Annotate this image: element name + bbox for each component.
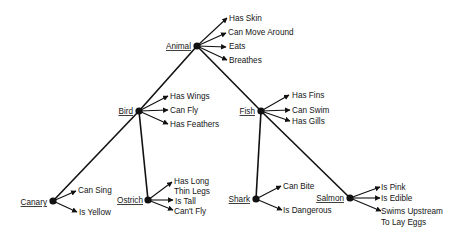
- prop-canary-is-yellow: Is Yellow: [79, 208, 111, 217]
- arrow-bird-has-feathers: [139, 111, 168, 124]
- prop-animal-has-skin: Has Skin: [229, 14, 262, 23]
- node-ostrich: [144, 196, 151, 203]
- prop-bird-has-feathers: Has Feathers: [170, 120, 219, 129]
- prop-animal-can-move-around: Can Move Around: [228, 28, 294, 37]
- label-bird: Bird: [118, 107, 133, 116]
- prop-animal-breathes: Breathes: [229, 56, 262, 65]
- prop-shark-can-bite: Can Bite: [283, 182, 315, 191]
- arrow-salmon-is-pink: [350, 187, 380, 198]
- edge-bird-ostrich: [139, 111, 148, 200]
- prop-fish-can-swim: Can Swim: [292, 106, 329, 115]
- arrow-animal-eats: [197, 46, 226, 47]
- node-canary: [49, 197, 56, 204]
- node-shark: [252, 195, 259, 202]
- label-shark: Shark: [229, 195, 251, 204]
- arrow-salmon-swims-upstream: [350, 198, 381, 211]
- prop-bird-can-fly: Can Fly: [170, 106, 199, 115]
- label-ostrich: Ostrich: [117, 196, 143, 205]
- prop-salmon-to-lay-eggs: To Lay Eggs: [381, 218, 426, 227]
- node-animal: [193, 42, 200, 49]
- property-arrows: [53, 18, 381, 212]
- label-salmon: Salmon: [316, 194, 344, 203]
- prop-shark-is-dangerous: Is Dangerous: [283, 206, 332, 215]
- edge-animal-bird: [139, 46, 197, 111]
- arrow-shark-is-dangerous: [256, 199, 282, 210]
- prop-ostrich-is-tall: Is Tall: [175, 197, 196, 206]
- prop-bird-has-wings: Has Wings: [170, 92, 210, 101]
- node-salmon: [346, 194, 353, 201]
- arrow-bird-has-wings: [139, 96, 168, 111]
- prop-salmon-is-pink: Is Pink: [381, 183, 406, 192]
- prop-ostrich-has-long: Has Long: [174, 177, 209, 186]
- arrow-animal-breathes: [197, 46, 227, 60]
- prop-fish-has-fins: Has Fins: [292, 91, 324, 100]
- label-animal: Animal: [166, 42, 191, 51]
- prop-fish-has-gills: Has Gills: [292, 117, 325, 126]
- arrow-canary-can-sing: [53, 191, 76, 201]
- prop-ostrich-cant-fly: Can't Fly: [174, 207, 207, 216]
- arrow-bird-can-fly: [139, 110, 168, 111]
- prop-animal-eats: Eats: [229, 42, 245, 51]
- arrow-ostrich-has-long-thin-legs: [148, 182, 172, 200]
- node-fish: [257, 107, 264, 114]
- label-canary: Canary: [21, 198, 48, 207]
- semantic-network-diagram: Animal Bird Fish Canary Ostrich Shark Sa…: [0, 0, 464, 236]
- arrow-animal-can-move-around: [197, 33, 226, 46]
- prop-ostrich-thin-legs: Thin Legs: [174, 187, 210, 196]
- prop-salmon-is-edible: Is Edible: [381, 194, 413, 203]
- arrow-animal-has-skin: [197, 18, 227, 46]
- arrow-canary-is-yellow: [53, 201, 77, 212]
- node-bird: [135, 107, 142, 114]
- arrow-ostrich-cant-fly: [148, 200, 173, 210]
- arrow-fish-has-fins: [261, 95, 289, 111]
- arrow-shark-can-bite: [256, 186, 281, 199]
- arrow-fish-can-swim: [261, 110, 290, 111]
- prop-canary-can-sing: Can Sing: [78, 186, 112, 195]
- edge-fish-shark: [256, 111, 261, 199]
- label-fish: Fish: [240, 107, 256, 116]
- prop-salmon-swims-upstream: Swims Upstream: [381, 207, 443, 216]
